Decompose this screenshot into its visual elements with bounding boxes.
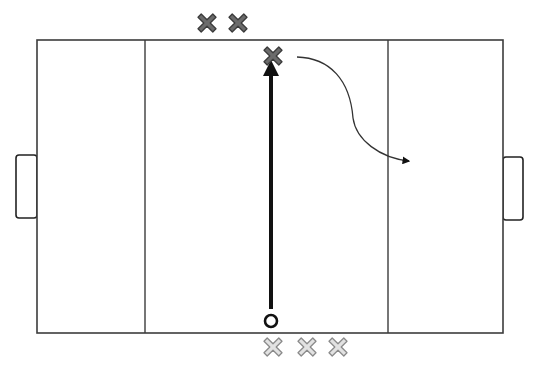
ball-icon	[265, 315, 277, 327]
diagram-canvas	[0, 0, 533, 375]
right-goal	[503, 157, 523, 220]
left-goal	[16, 155, 37, 218]
dark-player-2-x-icon	[229, 14, 247, 32]
play-diagram	[0, 0, 533, 375]
light-player-2-x-icon	[298, 338, 316, 356]
light-team-players	[264, 338, 347, 356]
dark-player-1-x-icon	[198, 14, 216, 32]
light-player-3-x-icon	[329, 338, 347, 356]
light-player-1-x-icon	[264, 338, 282, 356]
